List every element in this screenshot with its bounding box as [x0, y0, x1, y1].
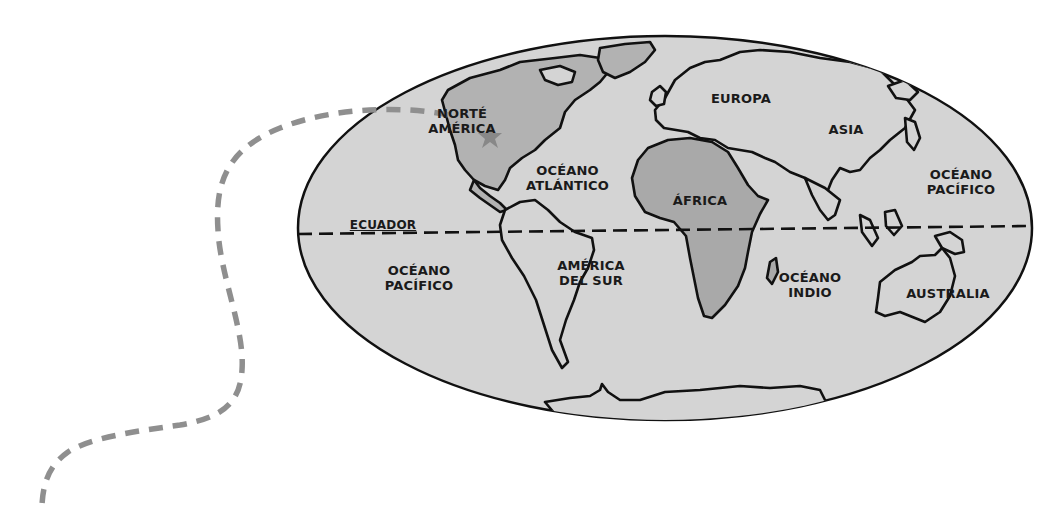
label-south-america: AMÉRICA DEL SUR: [548, 258, 634, 288]
label-pacific-ocean-east: OCÉANO PACÍFICO: [916, 167, 1006, 197]
label-australia: AUSTRALIA: [898, 286, 998, 301]
label-north-america: NORTÉ AMÉRICA: [418, 106, 506, 136]
map-graphic: [0, 0, 1060, 530]
label-africa: ÁFRICA: [660, 193, 740, 208]
label-europe: EUROPA: [700, 91, 782, 106]
label-equator: ECUADOR: [338, 218, 428, 233]
world-map: NORTÉ AMÉRICA OCÉANO ATLÁNTICO EUROPA AS…: [0, 0, 1060, 530]
label-asia: ASIA: [818, 122, 874, 137]
label-atlantic-ocean: OCÉANO ATLÁNTICO: [510, 163, 625, 193]
label-pacific-ocean-west: OCÉANO PACÍFICO: [374, 263, 464, 293]
label-indian-ocean: OCÉANO INDIO: [772, 270, 848, 300]
